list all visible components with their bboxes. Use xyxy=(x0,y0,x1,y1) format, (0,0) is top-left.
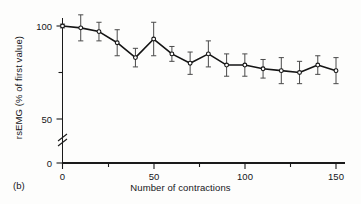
panel-label: (b) xyxy=(13,180,25,191)
data-point-marker xyxy=(243,63,247,67)
data-point-marker xyxy=(152,37,156,41)
x-tick-label-group: 0 50 100 150 xyxy=(60,171,344,182)
data-point-marker xyxy=(61,24,65,28)
axis-lines xyxy=(62,18,345,164)
y-tick-label-100: 100 xyxy=(36,21,52,32)
x-tick-label-50: 50 xyxy=(149,171,160,182)
data-point-marker xyxy=(206,52,210,56)
x-tick-label-150: 150 xyxy=(328,171,344,182)
data-point-marker xyxy=(170,52,174,56)
x-axis-minor-ticks xyxy=(109,163,291,167)
data-point-marker xyxy=(225,63,229,67)
data-markers xyxy=(61,24,338,74)
data-point-marker xyxy=(97,30,101,34)
y-axis-major-ticks xyxy=(57,26,63,163)
x-tick-label-100: 100 xyxy=(237,171,253,182)
data-point-marker xyxy=(134,56,138,60)
data-point-marker xyxy=(79,26,83,30)
y-tick-label-group: 100 50 0 xyxy=(36,21,52,169)
x-axis-title: Number of contractions xyxy=(0,182,361,193)
data-point-marker xyxy=(298,71,302,75)
data-point-marker xyxy=(115,41,119,45)
data-point-marker xyxy=(261,67,265,71)
data-point-marker xyxy=(334,69,338,73)
data-line xyxy=(63,26,337,73)
y-tick-label-0: 0 xyxy=(47,158,52,169)
error-bars xyxy=(60,15,339,84)
data-point-marker xyxy=(188,61,192,65)
data-point-marker xyxy=(279,69,283,73)
x-tick-label-0: 0 xyxy=(60,171,65,182)
y-axis-title: rsEMG (% of first value) xyxy=(13,18,24,158)
figure-panel-b: 100 50 0 0 50 100 150 rsEMG (% of first … xyxy=(0,0,361,204)
chart-canvas: 100 50 0 0 50 100 150 xyxy=(0,0,361,204)
data-point-marker xyxy=(316,63,320,67)
y-tick-label-50: 50 xyxy=(41,114,52,125)
